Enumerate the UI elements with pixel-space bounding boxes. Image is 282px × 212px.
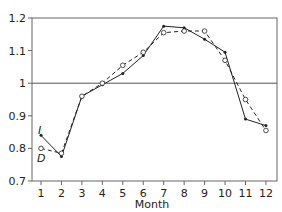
y-axis: 0.70.80.911.11.2 bbox=[9, 12, 33, 188]
data-point bbox=[202, 29, 207, 34]
x-tick-label: 11 bbox=[239, 187, 253, 200]
x-tick-label: 9 bbox=[201, 187, 208, 200]
x-tick-label: 3 bbox=[78, 187, 85, 200]
y-tick-label: 1 bbox=[19, 77, 26, 90]
data-point bbox=[121, 63, 126, 68]
y-tick-label: 0.8 bbox=[9, 142, 27, 155]
data-point bbox=[80, 94, 85, 99]
data-point bbox=[203, 38, 206, 41]
data-point bbox=[182, 29, 187, 34]
x-tick-label: 5 bbox=[119, 187, 126, 200]
x-axis-label: Month bbox=[135, 198, 170, 211]
y-tick-label: 1.2 bbox=[9, 12, 27, 25]
data-point bbox=[39, 146, 44, 151]
series-group bbox=[39, 25, 269, 158]
data-point bbox=[100, 81, 105, 86]
data-point bbox=[141, 50, 146, 55]
x-tick-label: 8 bbox=[181, 187, 188, 200]
line-chart: 0.70.80.911.11.2 123456789101112 Month I… bbox=[0, 0, 282, 212]
data-point bbox=[244, 118, 247, 121]
series-line-i bbox=[41, 26, 266, 156]
data-point bbox=[59, 151, 64, 156]
y-tick-label: 0.9 bbox=[9, 110, 27, 123]
series-label-i: I bbox=[38, 124, 41, 137]
y-tick-label: 1.1 bbox=[9, 45, 27, 58]
data-point bbox=[264, 128, 269, 133]
y-tick-label: 0.7 bbox=[9, 175, 27, 188]
data-point bbox=[264, 124, 267, 127]
x-tick-label: 4 bbox=[99, 187, 106, 200]
data-point bbox=[121, 72, 124, 75]
x-tick-label: 1 bbox=[38, 187, 45, 200]
series-label-d: D bbox=[37, 152, 45, 165]
data-point bbox=[162, 25, 165, 28]
data-point bbox=[223, 58, 228, 63]
x-tick-label: 2 bbox=[58, 187, 65, 200]
data-point bbox=[161, 30, 166, 35]
plot-frame bbox=[32, 18, 277, 181]
x-tick-label: 10 bbox=[218, 187, 232, 200]
x-tick-label: 12 bbox=[259, 187, 273, 200]
series-line-d bbox=[41, 31, 266, 153]
data-point bbox=[243, 97, 248, 102]
data-point bbox=[224, 51, 227, 54]
